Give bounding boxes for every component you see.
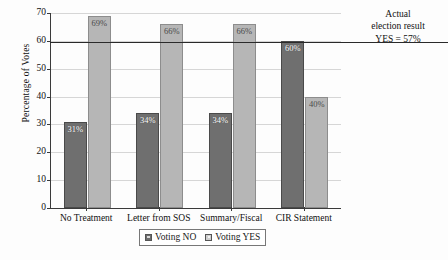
- y-axis-tick-mark: [47, 152, 51, 153]
- x-axis-category-labels: No TreatmentLetter from SOSSummary/Fisca…: [50, 211, 340, 227]
- x-axis-tick-mark: [304, 207, 305, 211]
- x-axis-tick-mark: [86, 207, 87, 211]
- chart-legend: Voting NO Voting YES: [139, 229, 266, 246]
- y-axis-tick-label: 70: [24, 8, 46, 18]
- annotation-line-1: Actual: [385, 9, 410, 19]
- y-axis-tick-label: 10: [24, 175, 46, 185]
- y-axis-tick-mark: [47, 69, 51, 70]
- annotation-line-2: election result: [371, 21, 425, 31]
- legend-label-voting-no: Voting NO: [155, 231, 196, 243]
- bar-value-label: 60%: [282, 44, 303, 53]
- y-axis-tick-label: 30: [24, 119, 46, 129]
- bar-value-label: 31%: [65, 125, 86, 134]
- bar-voting-yes[interactable]: 66%: [160, 24, 183, 208]
- y-axis-tick-labels: 010203040506070: [22, 0, 46, 260]
- y-axis-tick-mark: [47, 180, 51, 181]
- bar-chart-figure: Percentage of Votes 010203040506070 31%6…: [0, 0, 448, 260]
- bar-value-label: 34%: [210, 116, 231, 125]
- annotation-line-3: YES = 57%: [348, 34, 448, 46]
- y-axis-tick-mark: [47, 208, 51, 209]
- x-axis-category-label: Letter from SOS: [127, 213, 190, 224]
- x-axis-tick-mark: [231, 207, 232, 211]
- x-axis-category-label: CIR Statement: [276, 213, 332, 224]
- legend-swatch-icon-voting-yes: [205, 234, 212, 241]
- x-axis-category-label: No Treatment: [60, 213, 113, 224]
- legend-label-voting-yes: Voting YES: [215, 231, 260, 243]
- bar-value-label: 66%: [161, 27, 182, 36]
- bar-value-label: 40%: [306, 100, 327, 109]
- legend-swatch-icon-voting-no: [145, 234, 152, 241]
- bar-value-label: 69%: [89, 19, 110, 28]
- bar-value-label: 34%: [137, 116, 158, 125]
- x-axis-category-label: Summary/Fiscal: [200, 213, 262, 224]
- y-axis-tick-label: 0: [24, 203, 46, 213]
- y-axis-tick-label: 50: [24, 64, 46, 74]
- bar-value-label: 66%: [234, 27, 255, 36]
- y-axis-tick-label: 60: [24, 36, 46, 46]
- legend-item-voting-yes[interactable]: Voting YES: [205, 231, 260, 243]
- bar-voting-yes[interactable]: 40%: [305, 97, 328, 208]
- bar-voting-no[interactable]: 34%: [209, 113, 232, 208]
- y-axis-tick-label: 20: [24, 147, 46, 157]
- legend-item-voting-no[interactable]: Voting NO: [145, 231, 196, 243]
- y-axis-tick-mark: [47, 13, 51, 14]
- y-axis-tick-mark: [47, 97, 51, 98]
- y-axis-tick-mark: [47, 124, 51, 125]
- bar-voting-no[interactable]: 60%: [281, 41, 304, 208]
- bar-voting-no[interactable]: 34%: [136, 113, 159, 208]
- bar-voting-yes[interactable]: 66%: [233, 24, 256, 208]
- bar-voting-yes[interactable]: 69%: [88, 16, 111, 208]
- x-axis-tick-mark: [159, 207, 160, 211]
- reference-line-annotation: Actual election result YES = 57%: [348, 9, 448, 46]
- y-axis-tick-label: 40: [24, 92, 46, 102]
- bar-voting-no[interactable]: 31%: [64, 122, 87, 208]
